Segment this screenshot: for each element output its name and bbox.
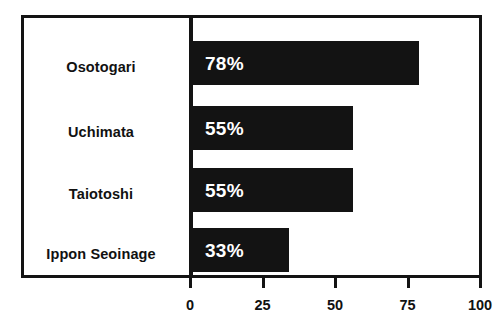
- bar-data-label-uchimata: 55%: [205, 119, 244, 138]
- plot-area: 78% 55% 55% 33%: [193, 18, 479, 278]
- bar-data-label-osotogari: 78%: [205, 54, 244, 73]
- category-label-uchimata: Uchimata: [24, 124, 178, 140]
- x-axis: 0255075100: [21, 263, 482, 319]
- category-label-ippon-seoinage: Ippon Seoinage: [24, 246, 178, 262]
- bar-chart: Osotogari Uchimata Taiotoshi Ippon Seoin…: [0, 0, 504, 319]
- x-axis-tick-label: 50: [327, 297, 343, 313]
- x-axis-tick-label: 75: [399, 297, 415, 313]
- x-axis-tick-mark: [189, 277, 192, 288]
- x-axis-tick-label: 25: [254, 297, 270, 313]
- bar-data-label-taiotoshi: 55%: [205, 181, 244, 200]
- category-label-taiotoshi: Taiotoshi: [24, 186, 178, 202]
- x-axis-tick-mark: [262, 277, 265, 288]
- bar-data-label-ippon-seoinage: 33%: [205, 241, 244, 260]
- plot-frame: Osotogari Uchimata Taiotoshi Ippon Seoin…: [21, 15, 482, 278]
- x-axis-tick-mark: [407, 277, 410, 288]
- x-axis-tick-label: 100: [468, 297, 492, 313]
- x-axis-tick-mark: [334, 277, 337, 288]
- x-axis-tick-mark: [479, 277, 482, 288]
- category-label-column: Osotogari Uchimata Taiotoshi Ippon Seoin…: [24, 18, 184, 278]
- x-axis-tick-label: 0: [186, 297, 194, 313]
- category-label-osotogari: Osotogari: [24, 59, 178, 75]
